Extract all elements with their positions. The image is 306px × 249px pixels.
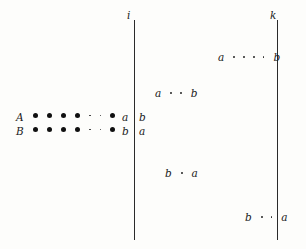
ellipsis-dot (263, 56, 265, 58)
ellipsis-dot (261, 216, 263, 218)
figure-canvas: i k a b a b A (0, 0, 306, 249)
node-dot (75, 127, 80, 132)
row-A-right-symbol: b (139, 111, 146, 123)
vertical-line-i (134, 20, 135, 240)
node-dot (47, 113, 52, 118)
ellipsis-dot (243, 56, 245, 58)
ellipsis-dot (180, 92, 182, 94)
sequence-start-symbol: b (245, 212, 252, 223)
sequence-start-symbol: a (155, 88, 161, 99)
ellipsis-dot (100, 115, 102, 117)
ellipsis-dot (233, 56, 235, 58)
sequence-upper-mid: a b (155, 88, 198, 99)
sequence-end-symbol: b (273, 52, 280, 63)
sequence-start-symbol: a (218, 52, 224, 63)
vertical-line-k-label: k (270, 10, 276, 21)
vertical-line-i-label: i (127, 10, 130, 21)
sequence-bottom-right: b a (245, 212, 288, 223)
node-dot (61, 127, 66, 132)
sequence-top-right: a b (218, 52, 280, 63)
dot-row-A (33, 113, 115, 118)
row-B-left-symbol: b (122, 125, 129, 137)
row-label-A: A (16, 112, 24, 123)
sequence-end-symbol: a (192, 168, 198, 179)
row-A-left-symbol: a (122, 111, 128, 123)
sequence-start-symbol: b (165, 168, 172, 179)
node-dot (110, 127, 115, 132)
node-dot (110, 113, 115, 118)
node-dot (47, 127, 52, 132)
ellipsis-dot (89, 115, 91, 117)
ellipsis-dot (100, 129, 102, 131)
ellipsis-dot (181, 172, 183, 174)
node-dot (75, 113, 80, 118)
sequence-end-symbol: a (281, 212, 287, 223)
row-B-right-symbol: a (139, 125, 145, 137)
row-label-B: B (16, 126, 24, 137)
ellipsis-dot (253, 56, 255, 58)
ellipsis-dot (89, 129, 91, 131)
sequence-end-symbol: b (191, 88, 198, 99)
node-dot (33, 127, 38, 132)
sequence-lower-mid: b a (165, 168, 198, 179)
node-dot (61, 113, 66, 118)
ellipsis-dot (170, 92, 172, 94)
node-dot (33, 113, 38, 118)
dot-row-B (33, 127, 115, 132)
ellipsis-dot (271, 216, 273, 218)
